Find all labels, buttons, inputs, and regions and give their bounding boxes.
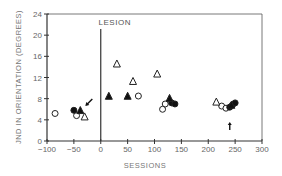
open-triangle-marker — [113, 60, 120, 67]
y-tick-label: 16 — [33, 52, 42, 61]
y-tick-label: 12 — [33, 74, 42, 83]
x-tick-label: 50 — [123, 145, 132, 154]
y-axis-title: JND IN ORIENTATION (DEGREES) — [14, 10, 23, 144]
filled-triangle-marker — [77, 107, 84, 114]
y-tick-label: 4 — [38, 116, 43, 125]
lesion-label: LESION — [99, 18, 131, 27]
x-tick-label: 0 — [99, 145, 104, 154]
filled-triangle-marker — [166, 94, 173, 101]
x-tick-label: −100 — [38, 145, 57, 154]
filled-circle-marker — [71, 107, 77, 113]
x-tick-label: 150 — [175, 145, 189, 154]
y-tick-label: 8 — [38, 95, 43, 104]
data-points — [52, 60, 238, 120]
x-tick-label: 100 — [148, 145, 162, 154]
lesion-marker: LESION — [99, 18, 131, 141]
filled-triangle-marker — [124, 92, 131, 99]
open-circle-marker — [135, 93, 141, 99]
x-tick-label: −50 — [67, 145, 81, 154]
y-tick-label: 20 — [33, 31, 42, 40]
open-circle-marker — [52, 110, 58, 116]
x-tick-label: 300 — [255, 145, 269, 154]
x-tick-label: 250 — [228, 145, 242, 154]
open-triangle-marker — [213, 98, 220, 105]
y-tick-label: 24 — [33, 10, 42, 19]
filled-triangle-marker — [105, 92, 112, 99]
open-triangle-marker — [130, 77, 137, 84]
scatter-chart: 04812162024 −100−50050100150200250300 LE… — [0, 0, 282, 176]
arrow-annotations — [85, 99, 231, 130]
x-tick-label: 200 — [202, 145, 216, 154]
x-axis-title: SESSIONS — [124, 161, 166, 170]
open-triangle-marker — [154, 70, 161, 77]
arrowhead-icon — [228, 122, 232, 125]
